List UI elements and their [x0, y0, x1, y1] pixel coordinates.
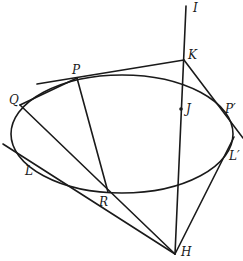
- line-I-H: [175, 6, 186, 254]
- tangent-at-L-through-H: [3, 144, 175, 254]
- tangent-H-L-prime: [175, 137, 234, 254]
- label-K: K: [187, 48, 198, 62]
- label-H: H: [180, 245, 192, 259]
- label-L-prime: L′: [228, 149, 240, 163]
- label-L: L: [24, 164, 33, 178]
- line-Q-R-H: [20, 105, 175, 254]
- line-K-P-prime: [184, 60, 243, 138]
- conic-diagram: I K J P P′ Q L L′ R H: [0, 0, 243, 261]
- label-R: R: [98, 195, 108, 209]
- label-Q: Q: [9, 93, 19, 107]
- label-P-prime: P′: [224, 102, 236, 116]
- point-J-dot: [179, 107, 183, 111]
- label-J: J: [183, 102, 192, 116]
- label-I: I: [192, 1, 198, 15]
- label-P: P: [71, 63, 81, 77]
- tangent-at-P-through-K: [37, 60, 184, 84]
